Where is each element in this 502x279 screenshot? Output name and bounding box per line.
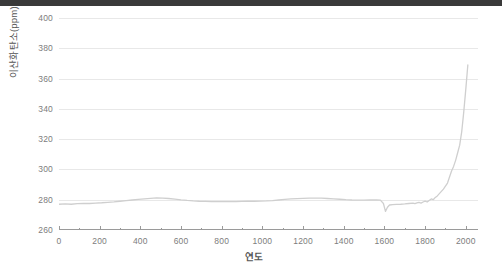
x-tick-label: 200	[80, 236, 120, 246]
y-tick-label: 340	[13, 104, 53, 114]
x-tick-label: 1000	[242, 236, 282, 246]
y-tick-label: 300	[13, 164, 53, 174]
x-tick-label: 1200	[283, 236, 323, 246]
x-tick-label: 2000	[446, 236, 486, 246]
x-tick-label: 400	[120, 236, 160, 246]
chart-figure: 이산화탄소(ppm) 260280300320340360380400 0200…	[0, 6, 502, 279]
x-tick-label: 0	[39, 236, 79, 246]
y-tick-label: 260	[13, 225, 53, 235]
y-tick-label: 360	[13, 74, 53, 84]
x-axis-label: 연도	[245, 249, 263, 263]
co2-line-series	[59, 18, 478, 230]
x-tick-label: 1400	[324, 236, 364, 246]
y-tick-label: 400	[13, 13, 53, 23]
x-tick-label: 1800	[405, 236, 445, 246]
y-axis-label: 이산화탄소(ppm)	[6, 0, 20, 78]
x-tick-label: 800	[202, 236, 242, 246]
y-tick-label: 320	[13, 134, 53, 144]
y-tick-label: 280	[13, 195, 53, 205]
x-tick-label: 600	[161, 236, 201, 246]
y-tick-label: 380	[13, 43, 53, 53]
x-tick-label: 1600	[364, 236, 404, 246]
plot-area	[59, 18, 478, 230]
